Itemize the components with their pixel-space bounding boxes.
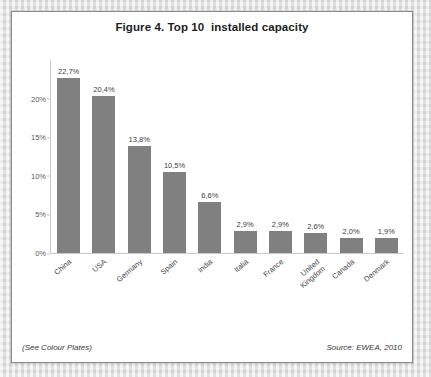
x-axis-category-label: Spain	[159, 258, 179, 277]
x-axis-category-label: France	[262, 258, 285, 280]
figure-footer: (See Colour Plates) Source: EWEA, 2010	[22, 343, 402, 352]
bar-slot: 2,9%	[263, 60, 298, 253]
bar	[128, 146, 151, 253]
x-label-slot: United Kingdom	[298, 254, 333, 306]
bar	[304, 233, 327, 253]
bar-value-label: 2,9%	[237, 220, 254, 229]
y-axis-tick: 20%	[20, 94, 46, 103]
y-axis-tick: 10%	[20, 171, 46, 180]
figure-panel: Figure 4. Top 10 installed capacity 0%5%…	[11, 11, 413, 363]
bar	[57, 78, 80, 253]
bar-value-label: 13,8%	[129, 135, 150, 144]
x-label-slot: Denmark	[369, 254, 404, 306]
x-label-slot: USA	[85, 254, 120, 306]
bar-slot: 2,0%	[333, 60, 368, 253]
bar-value-label: 2,0%	[342, 227, 359, 236]
bar	[269, 231, 292, 253]
bar-slot: 1,9%	[369, 60, 404, 253]
bar-chart: 0%5%10%15%20% 22,7%20,4%13,8%10,5%6,6%2,…	[18, 44, 408, 306]
x-label-slot: Italia	[227, 254, 262, 306]
bar-value-label: 2,6%	[307, 222, 324, 231]
x-axis-category-label: United Kingdom	[293, 258, 327, 290]
colour-plates-note: (See Colour Plates)	[22, 343, 92, 352]
x-axis-labels: ChinaUSAGermanySpainIndiaItaliaFranceUni…	[50, 254, 404, 306]
y-axis-tick: 0%	[20, 249, 46, 258]
bar	[340, 238, 363, 253]
bar-slot: 20,4%	[86, 60, 121, 253]
bar-slot: 2,6%	[298, 60, 333, 253]
x-axis-category-label: China	[53, 258, 74, 277]
bar-value-label: 2,9%	[272, 220, 289, 229]
bar-value-label: 20,4%	[93, 85, 114, 94]
source-note: Source: EWEA, 2010	[326, 343, 402, 352]
bar	[375, 238, 398, 253]
bar-slot: 10,5%	[157, 60, 192, 253]
bar-value-label: 6,6%	[201, 191, 218, 200]
bar-slot: 2,9%	[227, 60, 262, 253]
bar-value-label: 10,5%	[164, 161, 185, 170]
x-label-slot: France	[262, 254, 297, 306]
bar	[234, 231, 257, 253]
bar-value-label: 22,7%	[58, 67, 79, 76]
y-axis-tick: 15%	[20, 133, 46, 142]
bar	[92, 96, 115, 253]
x-axis-category-label: Italia	[233, 258, 251, 275]
bar-value-label: 1,9%	[378, 227, 395, 236]
x-axis-category-label: USA	[91, 258, 108, 275]
plot-area: 0%5%10%15%20% 22,7%20,4%13,8%10,5%6,6%2,…	[50, 60, 404, 254]
bar-slot: 22,7%	[51, 60, 86, 253]
figure-title: Figure 4. Top 10 installed capacity	[12, 21, 412, 33]
x-label-slot: Germany	[121, 254, 156, 306]
bar	[163, 172, 186, 253]
y-axis-tick: 5%	[20, 210, 46, 219]
bar-slot: 13,8%	[122, 60, 157, 253]
x-label-slot: India	[192, 254, 227, 306]
bar-series: 22,7%20,4%13,8%10,5%6,6%2,9%2,9%2,6%2,0%…	[51, 60, 404, 253]
bar	[198, 202, 221, 253]
x-axis-category-label: Canada	[331, 258, 357, 282]
bar-slot: 6,6%	[192, 60, 227, 253]
x-label-slot: Canada	[333, 254, 368, 306]
x-label-slot: China	[50, 254, 85, 306]
x-axis-category-label: India	[197, 258, 215, 275]
x-label-slot: Spain	[156, 254, 191, 306]
